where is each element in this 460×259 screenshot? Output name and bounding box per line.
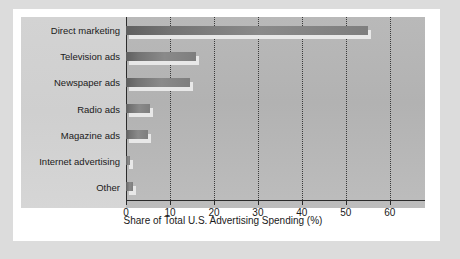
category-label: Radio ads: [77, 103, 120, 114]
x-tick: [126, 200, 127, 205]
x-tick: [170, 200, 171, 205]
bar[interactable]: [126, 78, 190, 87]
x-tick: [390, 200, 391, 205]
category-label: Television ads: [60, 51, 120, 62]
gridline: [302, 17, 303, 200]
bar[interactable]: [126, 52, 196, 61]
bar[interactable]: [126, 104, 150, 113]
bar[interactable]: [126, 26, 368, 35]
bar[interactable]: [126, 130, 148, 139]
x-tick: [302, 200, 303, 205]
category-label-column: Direct marketingTelevision adsNewspaper …: [21, 17, 126, 208]
category-label: Direct marketing: [51, 25, 120, 36]
x-axis-title: Share of Total U.S. Advertising Spending…: [21, 215, 425, 226]
gridline: [214, 17, 215, 200]
category-label: Other: [96, 181, 120, 192]
bar[interactable]: [126, 182, 133, 191]
x-tick: [214, 200, 215, 205]
category-label: Newspaper ads: [54, 77, 120, 88]
x-tick: [346, 200, 347, 205]
plot-panel: Direct marketingTelevision adsNewspaper …: [21, 17, 425, 208]
bar[interactable]: [126, 156, 130, 165]
category-label: Magazine ads: [61, 129, 120, 140]
x-tick: [258, 200, 259, 205]
gridline: [170, 17, 171, 200]
chart-figure: Direct marketingTelevision adsNewspaper …: [0, 0, 460, 259]
category-label: Internet advertising: [39, 155, 120, 166]
gridline: [258, 17, 259, 200]
chart-card: Direct marketingTelevision adsNewspaper …: [13, 9, 440, 241]
gridline: [390, 17, 391, 200]
plot-area: 0102030405060: [126, 17, 425, 208]
gridline: [346, 17, 347, 200]
